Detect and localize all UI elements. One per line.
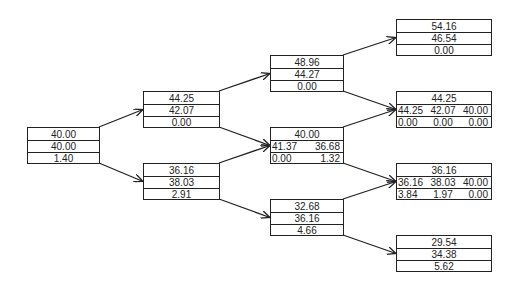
node-value: 0.00 (172, 117, 191, 128)
node-value: 0.00 (433, 117, 452, 128)
node-row: 36.1638.0340.00 (397, 176, 491, 188)
node-value: 2.91 (172, 189, 191, 200)
edge-arrow-n2dd-n3ddd (343, 235, 396, 254)
edge-arrow-n2uu-n3uud (343, 91, 396, 110)
node-value: 38.03 (430, 177, 455, 188)
node-row: 44.27 (271, 68, 343, 80)
node-value: 40.00 (463, 177, 488, 188)
node-value: 44.25 (169, 93, 194, 104)
tree-node-n0: 40.0040.001.40 (27, 127, 100, 164)
edge-arrow-n1u-n2uu (219, 74, 270, 92)
node-row: 36.16 (271, 212, 343, 224)
node-value: 0.00 (469, 189, 488, 200)
node-value: 36.16 (431, 165, 456, 176)
tree-node-n3uuu: 54.1646.540.00 (396, 19, 492, 56)
node-row: 38.03 (144, 176, 219, 188)
tree-node-n3udd: 36.1636.1638.0340.003.841.970.00 (396, 163, 492, 200)
node-row: 41.3736.68 (271, 140, 343, 152)
node-row: 5.62 (397, 260, 491, 272)
edge-arrow-n1d-n2dd (219, 199, 270, 218)
node-row: 2.91 (144, 188, 219, 200)
node-value: 1.32 (321, 153, 340, 164)
node-value: 38.03 (169, 177, 194, 188)
node-row: 0.00 (271, 80, 343, 92)
node-value: 40.00 (51, 129, 76, 140)
node-row: 44.2542.0740.00 (397, 104, 491, 116)
node-row: 40.00 (28, 128, 99, 140)
node-value: 1.40 (54, 153, 73, 164)
node-row: 36.16 (144, 164, 219, 176)
node-value: 40.00 (51, 141, 76, 152)
node-row: 0.00 (397, 44, 491, 56)
node-row: 40.00 (271, 128, 343, 140)
node-row: 44.25 (397, 92, 491, 104)
node-row: 3.841.970.00 (397, 188, 491, 200)
tree-node-n1d: 36.1638.032.91 (143, 163, 220, 200)
node-value: 36.16 (169, 165, 194, 176)
node-value: 41.37 (272, 141, 297, 152)
tree-node-n1u: 44.2542.070.00 (143, 91, 220, 128)
node-value: 0.00 (434, 45, 453, 56)
node-value: 40.00 (463, 105, 488, 116)
node-value: 0.00 (272, 153, 291, 164)
node-row: 46.54 (397, 32, 491, 44)
tree-node-n2uu: 48.9644.270.00 (270, 55, 344, 92)
node-row: 40.00 (28, 140, 99, 152)
node-value: 0.00 (398, 117, 417, 128)
edge-arrow-n0-n1u (99, 110, 143, 128)
node-value: 0.00 (469, 117, 488, 128)
node-value: 44.25 (431, 93, 456, 104)
node-row: 36.16 (397, 164, 491, 176)
node-value: 54.16 (431, 21, 456, 32)
edge-arrow-n2ud-n3uud (343, 110, 396, 128)
node-row: 0.001.32 (271, 152, 343, 164)
node-row: 4.66 (271, 224, 343, 236)
edge-arrow-n1d-n2ud (219, 146, 270, 164)
node-row: 29.54 (397, 236, 491, 248)
node-value: 40.00 (294, 129, 319, 140)
node-value: 42.07 (430, 105, 455, 116)
node-value: 5.62 (434, 261, 453, 272)
node-value: 36.68 (315, 141, 340, 152)
node-value: 32.68 (294, 201, 319, 212)
node-value: 1.97 (433, 189, 452, 200)
node-value: 48.96 (294, 57, 319, 68)
edge-arrow-n2uu-n3uuu (343, 38, 396, 56)
edge-arrow-n1u-n2ud (219, 127, 270, 146)
edge-arrow-n2dd-n3udd (343, 182, 396, 200)
node-value: 4.66 (297, 225, 316, 236)
node-row: 0.00 (144, 116, 219, 128)
tree-node-n3uud: 44.2544.2542.0740.000.000.000.00 (396, 91, 492, 128)
node-row: 48.96 (271, 56, 343, 68)
node-value: 3.84 (398, 189, 417, 200)
node-value: 29.54 (431, 237, 456, 248)
tree-node-n2dd: 32.6836.164.66 (270, 199, 344, 236)
node-value: 36.16 (398, 177, 423, 188)
node-value: 44.25 (398, 105, 423, 116)
node-value: 34.38 (431, 249, 456, 260)
tree-node-n3ddd: 29.5434.385.62 (396, 235, 492, 272)
edge-arrow-n0-n1d (99, 163, 143, 182)
node-value: 46.54 (431, 33, 456, 44)
node-value: 44.27 (294, 69, 319, 80)
node-row: 42.07 (144, 104, 219, 116)
node-value: 42.07 (169, 105, 194, 116)
node-row: 54.16 (397, 20, 491, 32)
node-row: 44.25 (144, 92, 219, 104)
node-row: 0.000.000.00 (397, 116, 491, 128)
node-value: 0.00 (297, 81, 316, 92)
tree-node-n2ud: 40.0041.3736.680.001.32 (270, 127, 344, 164)
node-row: 34.38 (397, 248, 491, 260)
node-row: 1.40 (28, 152, 99, 164)
node-row: 32.68 (271, 200, 343, 212)
node-value: 36.16 (294, 213, 319, 224)
edge-arrow-n2ud-n3udd (343, 163, 396, 182)
